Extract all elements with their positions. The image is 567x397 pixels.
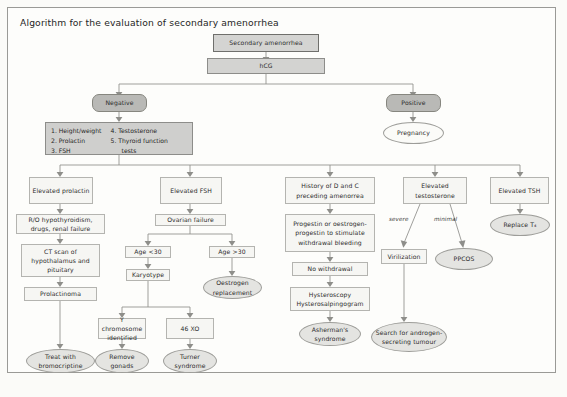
wire-testosterone-minimal: [450, 204, 465, 248]
wire-positive-pregnancy: [410, 112, 417, 122]
workup-item-1: 1. Height/weight: [51, 126, 102, 136]
wire-ovarian-ages: [145, 226, 236, 246]
edge-label-severe: severe: [389, 216, 408, 222]
node-secondary-amenorrhea[interactable]: Secondary amenorrhea: [213, 34, 319, 52]
workup-item-4: 4. Testosterone: [111, 126, 168, 136]
node-ct-scan[interactable]: CT scan of hypothalamus and pituitary: [21, 244, 100, 277]
node-elevated-prolactin[interactable]: Elevated prolactin: [29, 177, 93, 204]
wire-hcg-split: [116, 74, 417, 97]
workup-item-5: 5. Thyroid function: [111, 136, 168, 146]
node-elevated-testosterone[interactable]: Elevated testosterone: [403, 177, 467, 204]
node-karyotype[interactable]: Karyotype: [126, 269, 170, 281]
edge-label-minimal: minimal: [434, 216, 457, 222]
node-age-over-30[interactable]: Age >30: [209, 246, 255, 258]
wire-progestin-nowithdrawal: [327, 252, 334, 262]
node-prolactinoma[interactable]: Prolactinoma: [24, 287, 97, 301]
wire-fsh-ovarian: [187, 204, 194, 214]
wire-testosterone-severe: [401, 204, 420, 248]
node-hcg[interactable]: hCG: [207, 58, 325, 74]
wire-list-bus: [57, 155, 524, 177]
wire-prolactinoma-treat: [57, 301, 64, 349]
workup-item-2: 2. Prolactin: [51, 136, 102, 146]
node-turner-syndrome[interactable]: Turner syndrome: [163, 349, 217, 373]
wire-prolactin-ro: [57, 204, 64, 214]
node-replace-t4[interactable]: Replace T₄: [490, 214, 550, 236]
node-no-withdrawal[interactable]: No withdrawal: [292, 262, 368, 276]
wire-karyotype-split: [119, 281, 194, 318]
node-ro-hypothyroidism[interactable]: R/O hypothyroidism, drugs, renal failure: [16, 214, 105, 234]
wire-virilization-search: [401, 264, 408, 322]
wire-hystero-ashermans: [327, 311, 334, 322]
node-positive[interactable]: Positive: [386, 94, 441, 112]
wire-nowithdrawal-hystero: [327, 276, 334, 287]
node-ashermans-syndrome[interactable]: Asherman's syndrome: [299, 322, 361, 346]
wire-ro-ct: [57, 234, 64, 244]
node-pcos[interactable]: PPCOS: [435, 248, 493, 270]
node-progestin[interactable]: Progestin or oestrogen-progestin to stim…: [285, 214, 375, 252]
node-hysteroscopy[interactable]: Hysteroscopy Hysterosalpingogram: [290, 287, 370, 311]
node-virilization[interactable]: Virilization: [381, 249, 427, 264]
flowchart-canvas: Algorithm for the evaluation of secondar…: [0, 0, 567, 397]
workup-item-3: 3. FSH: [51, 146, 102, 156]
node-treat-bromocriptine[interactable]: Treat with bromocriptine: [26, 349, 95, 373]
node-elevated-tsh[interactable]: Elevated TSH: [490, 177, 549, 204]
node-search-androgen-tumour[interactable]: Search for androgen-secreting tumour: [371, 322, 447, 352]
wire-negative-list: [116, 112, 123, 122]
node-negative[interactable]: Negative: [92, 94, 147, 112]
node-remove-gonads[interactable]: Remove gonads: [95, 349, 149, 373]
wire-ct-prolactinoma: [57, 277, 64, 287]
wire-age30plus-oestrogen: [229, 258, 236, 276]
wire-age30-karyotype: [145, 258, 152, 269]
workup-item-5-cont: tests: [111, 146, 168, 156]
node-elevated-fsh[interactable]: Elevated FSH: [160, 177, 222, 204]
wire-tsh-replace: [517, 204, 524, 214]
node-y-chromosome[interactable]: Y chromosome identified: [98, 318, 146, 339]
node-oestrogen-replacement[interactable]: Oestrogen replacement: [203, 276, 262, 299]
node-history-d-and-c[interactable]: History of D and C preceding amenorrea: [285, 177, 375, 204]
wire-46xo-turner: [187, 339, 194, 349]
node-ovarian-failure[interactable]: Ovarian failure: [155, 214, 226, 226]
wire-dandc-progestin: [327, 204, 334, 214]
node-workup-list[interactable]: 1. Height/weight 2. Prolactin 3. FSH 4. …: [45, 122, 193, 155]
node-46-xo[interactable]: 46 XO: [166, 318, 214, 339]
node-pregnancy[interactable]: Pregnancy: [383, 122, 444, 144]
node-age-under-30[interactable]: Age <30: [125, 246, 171, 258]
